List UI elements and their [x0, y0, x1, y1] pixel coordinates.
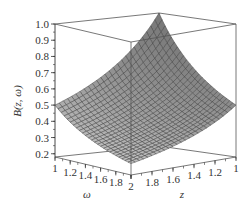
omega-tick-label: 1.2 — [63, 166, 77, 178]
vertical-tick-label: 1.0 — [35, 18, 49, 30]
z-tick-label: 1.6 — [166, 173, 180, 185]
vertical-tick-label: 0.4 — [35, 115, 49, 127]
omega-axis-title: ω — [83, 188, 91, 200]
vertical-axis: 0.20.30.40.50.60.70.80.91.0 — [35, 18, 55, 160]
vertical-tick-label: 0.8 — [35, 50, 49, 62]
vertical-tick-label: 0.3 — [35, 132, 49, 144]
z-axis-title: z — [179, 188, 185, 200]
omega-tick-label: 1 — [52, 162, 58, 174]
vertical-tick-label: 0.5 — [35, 99, 49, 111]
vertical-tick-label: 0.2 — [35, 148, 49, 160]
z-axis: 1.81.61.41.21 — [131, 157, 239, 188]
z-tick-label: 1.2 — [208, 166, 222, 178]
omega-axis: 11.21.41.61.82 — [52, 157, 134, 192]
vertical-tick-label: 0.7 — [35, 67, 49, 79]
omega-tick-label: 1.4 — [79, 169, 93, 181]
surface-mesh — [55, 13, 236, 164]
z-tick-label: 1.8 — [145, 176, 159, 188]
box-edge — [55, 13, 159, 24]
box-edge — [55, 24, 131, 42]
vertical-tick-label: 0.6 — [35, 83, 49, 95]
omega-tick-label: 2 — [128, 180, 134, 192]
vertical-tick-label: 0.9 — [35, 34, 49, 46]
omega-tick-label: 1.6 — [94, 173, 108, 185]
z-tick-label: 1 — [233, 162, 239, 174]
vertical-axis-title: B(z, ω) — [11, 85, 24, 117]
omega-tick-label: 1.8 — [109, 176, 123, 188]
z-tick-label: 1.4 — [187, 169, 201, 181]
surface-plot: 0.20.30.40.50.60.70.80.91.0 11.21.41.61.… — [0, 0, 251, 211]
box-edge — [159, 13, 236, 24]
